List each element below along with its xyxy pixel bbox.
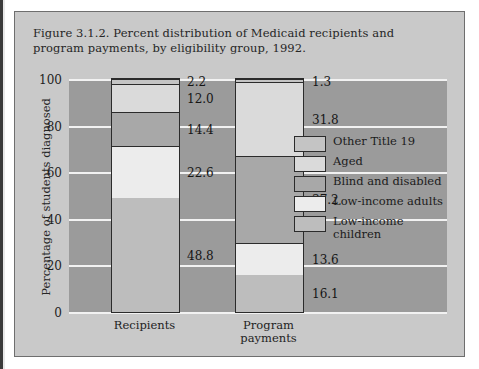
bar-value-label: 14.4 — [187, 123, 214, 137]
bar-value-label: 16.1 — [312, 287, 339, 301]
y-axis-tick-label: 20 — [47, 259, 62, 273]
legend-swatch — [294, 216, 326, 232]
y-axis-tick-label: 80 — [47, 120, 62, 134]
legend-label: Low-income adults — [333, 195, 443, 208]
legend-item[interactable]: Low-income adults — [294, 195, 443, 212]
bar-value-label: 22.6 — [187, 166, 214, 180]
legend-label: Aged — [333, 155, 363, 168]
scan-edge-light — [3, 0, 5, 369]
bar-value-label: 31.8 — [312, 113, 339, 127]
bar-segment[interactable] — [112, 146, 179, 199]
bar-value-label: 1.3 — [312, 75, 331, 89]
y-axis-tick-label: 100 — [39, 73, 62, 87]
bar-value-label: 2.2 — [187, 75, 206, 89]
bar-segment[interactable] — [112, 112, 179, 146]
legend-item[interactable]: Blind and disabled — [294, 175, 443, 192]
figure-panel: Figure 3.1.2. Percent distribution of Me… — [14, 11, 465, 357]
bar-segment[interactable] — [236, 243, 303, 275]
bar-segment[interactable] — [236, 156, 303, 243]
stacked-bar[interactable] — [111, 78, 180, 313]
figure-root: Figure 3.1.2. Percent distribution of Me… — [0, 0, 479, 369]
legend-item[interactable]: Low-income children — [294, 215, 443, 240]
bar-value-label: 13.6 — [312, 253, 339, 267]
legend-item[interactable]: Aged — [294, 155, 443, 172]
legend-swatch — [294, 176, 326, 192]
bar-segment[interactable] — [112, 84, 179, 112]
figure-title: Figure 3.1.2. Percent distribution of Me… — [33, 26, 445, 56]
legend-label: Low-income children — [333, 215, 403, 240]
y-axis-tick-label: 60 — [47, 166, 62, 180]
legend-label: Blind and disabled — [333, 175, 442, 188]
legend-swatch — [294, 136, 326, 152]
bar-value-label: 48.8 — [187, 249, 214, 263]
y-axis-label: Percentage of students diagnosed — [37, 80, 55, 313]
legend-swatch — [294, 156, 326, 172]
y-axis-tick-label: 40 — [47, 213, 62, 227]
legend-item[interactable]: Other Title 19 — [294, 135, 443, 152]
chart-legend: Other Title 19AgedBlind and disabledLow-… — [294, 135, 443, 243]
x-axis-tick-label: Recipients — [111, 319, 178, 332]
legend-swatch — [294, 196, 326, 212]
legend-label: Other Title 19 — [333, 135, 415, 148]
bar-segment[interactable] — [112, 198, 179, 312]
bar-segment[interactable] — [236, 275, 303, 313]
bar-value-label: 12.0 — [187, 92, 214, 106]
y-axis-tick-label: 0 — [54, 306, 62, 320]
x-axis-tick-label: Program payments — [235, 319, 302, 345]
bar-segment[interactable] — [236, 82, 303, 156]
